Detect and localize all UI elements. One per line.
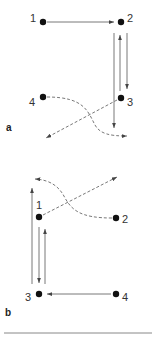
edge-b-2-exit xyxy=(35,179,112,218)
node-b-1 xyxy=(36,214,42,220)
node-label-b-2: 2 xyxy=(122,213,128,225)
node-b-4 xyxy=(113,291,119,297)
node-label-b-4: 4 xyxy=(122,291,128,303)
node-label-a-4: 4 xyxy=(29,96,35,108)
node-label-a-2: 2 xyxy=(127,12,133,24)
edge-b-1-exit xyxy=(43,177,117,215)
node-a-4 xyxy=(40,94,46,100)
panel-label-b: b xyxy=(5,307,11,318)
panel-a: 1 2 3 4 a xyxy=(6,12,133,138)
node-label-a-1: 1 xyxy=(30,12,36,24)
node-label-a-3: 3 xyxy=(127,96,133,108)
panel-b: 1 2 3 4 b xyxy=(5,177,128,318)
diagram-figure: 1 2 3 4 a 1 2 3 4 b xyxy=(0,0,152,341)
panel-label-a: a xyxy=(6,122,12,133)
node-a-3 xyxy=(118,95,124,101)
diagram-canvas: 1 2 3 4 a 1 2 3 4 b xyxy=(0,0,152,341)
node-b-2 xyxy=(113,215,119,221)
node-a-2 xyxy=(118,19,124,25)
node-b-3 xyxy=(36,291,42,297)
node-label-b-3: 3 xyxy=(25,291,31,303)
node-label-b-1: 1 xyxy=(36,199,42,211)
edge-a-4-exit xyxy=(47,97,127,136)
node-a-1 xyxy=(40,19,46,25)
